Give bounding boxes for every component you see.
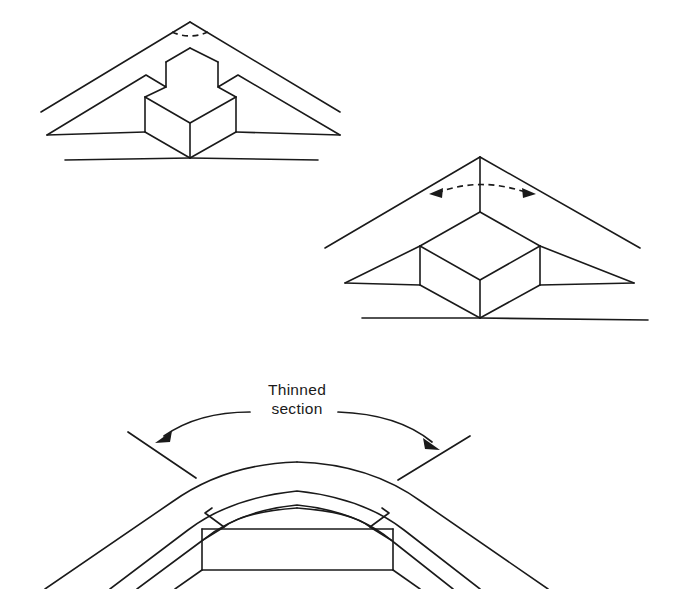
wall-mid-edge-right — [236, 132, 340, 135]
apex-dashed-arc — [172, 32, 208, 36]
callout-pointer-line-right — [398, 436, 470, 480]
outer-top-edge-rounded-inner — [137, 505, 453, 589]
technical-drawing-svg: Thinned section — [0, 0, 689, 589]
wall-lower-edge-left-2 — [345, 283, 420, 285]
boss-top-face-front-v — [145, 97, 236, 123]
outer-top-edge-left — [41, 22, 190, 112]
boss-top-right-flank — [190, 48, 218, 62]
thinned-section-label-line1: Thinned — [268, 381, 326, 398]
boss-top-face-front-v-2 — [420, 246, 540, 280]
wall-mid-edge-left — [47, 132, 145, 135]
wall-lower-edge-left — [65, 158, 190, 160]
wall-mid-edge-right-2 — [540, 246, 634, 283]
outer-top-edge-right — [190, 22, 340, 112]
notch-step-right-3 — [370, 508, 391, 540]
apex-dashed-arc-2 — [437, 185, 528, 194]
wall-lower-edge-left-3 — [175, 570, 202, 589]
notch-step-left-3 — [203, 508, 224, 540]
figure-top-left-sharp-corner — [41, 22, 340, 160]
wall-bottom-edge-right-2 — [480, 318, 648, 320]
top-face-edge-right-2 — [480, 212, 540, 246]
figure-middle-right-radiused-corner — [325, 157, 648, 320]
thinned-section-label-line2: section — [271, 400, 322, 417]
wall-lower-edge-right-2 — [540, 283, 634, 285]
wall-lower-edge-right — [190, 158, 318, 160]
callout-arrowhead-right — [423, 438, 440, 450]
outer-top-edge-right-2 — [480, 157, 640, 248]
top-face-edge-left-2 — [420, 212, 480, 246]
diagram-sheet: Thinned section — [0, 0, 689, 589]
figure-bottom-rounded-corner: Thinned section — [45, 381, 548, 589]
callout-leader-left — [164, 412, 250, 436]
arc-arrowhead-right — [522, 188, 536, 198]
wall-mid-edge-left-2 — [345, 246, 420, 283]
callout-leader-right — [338, 412, 432, 442]
arc-arrowhead-left — [429, 188, 443, 198]
boss-top-face-right-edge — [218, 87, 236, 97]
boss-top-left-flank — [166, 48, 190, 62]
boss-top-face-left-edge — [145, 87, 166, 97]
wall-lower-edge-right-3 — [393, 570, 420, 589]
outer-top-edge-left-2 — [325, 157, 480, 248]
